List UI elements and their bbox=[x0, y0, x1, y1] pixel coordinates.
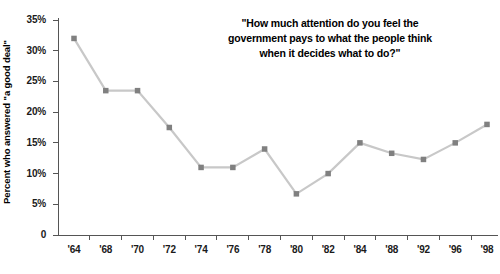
data-point-marker bbox=[198, 165, 204, 171]
x-axis-tick-label: '82 bbox=[311, 245, 345, 255]
data-point-marker bbox=[230, 165, 236, 171]
y-axis-ticks bbox=[53, 20, 58, 235]
y-axis-tick-label: 5% bbox=[10, 199, 46, 209]
chart-title-line: "How much attention do you feel the bbox=[170, 16, 490, 31]
y-axis-tick-label: 15% bbox=[10, 138, 46, 148]
data-point-marker bbox=[71, 36, 77, 42]
x-axis-tick-label: '78 bbox=[248, 245, 282, 255]
x-axis-tick-label: '98 bbox=[470, 245, 500, 255]
data-point-marker bbox=[262, 146, 268, 152]
y-axis-tick-label: 35% bbox=[10, 15, 46, 25]
y-axis-tick-label: 0 bbox=[10, 230, 46, 240]
x-axis-tick-label: '70 bbox=[121, 245, 155, 255]
y-axis-tick-label: 10% bbox=[10, 169, 46, 179]
x-axis-tick-label: '92 bbox=[406, 245, 440, 255]
x-axis-tick-label: '88 bbox=[375, 245, 409, 255]
data-point-marker bbox=[135, 88, 141, 94]
x-axis-tick-label: '68 bbox=[89, 245, 123, 255]
x-axis-tick-label: '72 bbox=[152, 245, 186, 255]
x-axis-tick-label: '64 bbox=[57, 245, 91, 255]
data-point-marker bbox=[452, 140, 458, 146]
y-axis-tick-label: 20% bbox=[10, 107, 46, 117]
chart-container: Percent who answered "a good deal" 05%10… bbox=[0, 0, 500, 274]
data-point-marker bbox=[325, 171, 331, 177]
data-point-marker bbox=[167, 125, 173, 131]
x-axis-tick-label: '74 bbox=[184, 245, 218, 255]
data-point-marker bbox=[484, 122, 490, 128]
data-point-marker bbox=[103, 88, 109, 94]
data-point-marker bbox=[294, 191, 300, 197]
x-axis-tick-label: '96 bbox=[438, 245, 472, 255]
data-line bbox=[74, 38, 487, 193]
y-axis-tick-label: 30% bbox=[10, 46, 46, 56]
chart-title: "How much attention do you feel thegover… bbox=[170, 16, 490, 61]
data-point-marker bbox=[421, 157, 427, 163]
x-axis-tick-label: '84 bbox=[343, 245, 377, 255]
data-point-marker bbox=[389, 151, 395, 157]
chart-title-line: government pays to what the people think bbox=[170, 31, 490, 46]
x-axis-ticks bbox=[90, 235, 471, 240]
chart-title-line: when it decides what to do?" bbox=[170, 46, 490, 61]
x-axis-tick-label: '80 bbox=[279, 245, 313, 255]
data-point-marker bbox=[357, 140, 363, 146]
y-axis-tick-label: 25% bbox=[10, 76, 46, 86]
x-axis-tick-label: '76 bbox=[216, 245, 250, 255]
